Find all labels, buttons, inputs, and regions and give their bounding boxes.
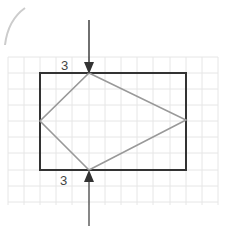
top-arrow: [84, 20, 94, 74]
top-segment-label: 3: [61, 59, 68, 72]
diagram-canvas: [0, 0, 231, 239]
bottom-segment-label: 3: [60, 174, 67, 187]
bottom-arrow: [84, 170, 94, 226]
partial-arc: [5, 8, 25, 45]
